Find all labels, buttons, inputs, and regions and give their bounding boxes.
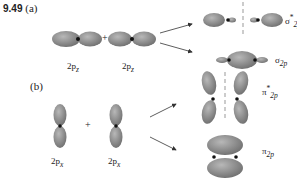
- plus-sign-b: +: [85, 119, 91, 130]
- ao-label-2px-right: 2px: [108, 156, 120, 169]
- mo-pi-2p: [207, 135, 243, 178]
- problem-number: 9.49: [3, 3, 22, 14]
- orbital-2px-right: [110, 104, 123, 148]
- mo-sigma-2p: [216, 51, 268, 69]
- ao-label-2pz-left: 2pz: [67, 61, 79, 74]
- orbital-diagram: [0, 0, 297, 181]
- ao-label-2pz-right: 2pz: [122, 61, 134, 74]
- part-b-label: (b): [30, 80, 43, 92]
- orbital-2px-left: [54, 104, 67, 148]
- mo-pi-star-2p: [200, 70, 251, 125]
- mo-label-pi-star: π*2p: [262, 84, 278, 100]
- arrow-to-sigma-star: [160, 24, 192, 33]
- orbital-2pz-left: [52, 31, 102, 47]
- arrow-to-sigma: [160, 43, 192, 52]
- arrow-to-pi: [150, 137, 176, 150]
- mo-label-sigma: σ2p: [275, 55, 287, 68]
- mo-sigma-star-2p: [203, 2, 283, 36]
- part-a-label: (a): [25, 2, 37, 14]
- ao-label-2px-left: 2px: [51, 156, 63, 169]
- mo-label-sigma-star: σ*2p: [285, 13, 297, 29]
- plus-sign-a: +: [102, 32, 108, 43]
- mo-label-pi: π2p: [262, 146, 274, 159]
- orbital-2pz-right: [108, 32, 156, 47]
- arrow-to-pi-star: [150, 104, 176, 117]
- problem-header: 9.49 (a): [3, 2, 37, 14]
